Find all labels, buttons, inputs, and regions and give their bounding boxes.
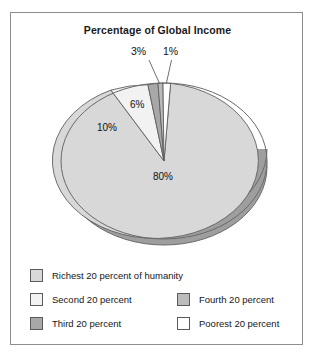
pie-chart-figure: Percentage of Global Income: [0, 0, 314, 358]
pie-value-label-third: 6%: [130, 99, 144, 110]
legend-swatch-icon: [177, 317, 190, 330]
legend-label-third: Third 20 percent: [52, 318, 121, 329]
legend-swatch-icon: [177, 293, 190, 306]
legend-item-third: Third 20 percent: [30, 315, 121, 331]
legend-swatch-icon: [30, 317, 43, 330]
chart-legend: Richest 20 percent of humanity Second 20…: [11, 261, 304, 346]
pie-plot-area: 80% 10% 6% 3% 1%: [11, 13, 304, 253]
legend-item-poorest: Poorest 20 percent: [177, 315, 279, 331]
legend-swatch-icon: [30, 293, 43, 306]
legend-item-second: Second 20 percent: [30, 291, 132, 307]
legend-label-richest: Richest 20 percent of humanity: [52, 270, 183, 281]
legend-item-richest: Richest 20 percent of humanity: [30, 267, 183, 283]
chart-frame: Percentage of Global Income: [10, 12, 303, 345]
pie-value-label-fourth: 3%: [131, 45, 146, 57]
pie-graphic: [11, 13, 304, 253]
pie-value-label-second: 10%: [97, 122, 117, 133]
legend-label-second: Second 20 percent: [52, 294, 132, 305]
legend-label-fourth: Fourth 20 percent: [199, 294, 274, 305]
pie-value-label-poorest: 1%: [163, 45, 178, 57]
legend-swatch-icon: [30, 269, 43, 282]
pie-value-label-richest: 80%: [153, 171, 173, 182]
legend-item-fourth: Fourth 20 percent: [177, 291, 274, 307]
leader-lines: [149, 60, 172, 84]
legend-label-poorest: Poorest 20 percent: [199, 318, 279, 329]
